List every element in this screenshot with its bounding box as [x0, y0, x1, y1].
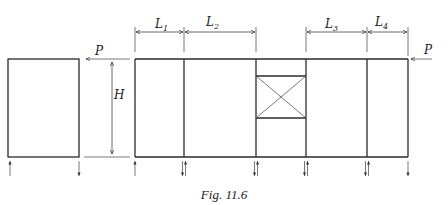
- single-frame: [8, 59, 79, 176]
- base-reactions: [135, 161, 408, 176]
- height-dimension: H: [84, 62, 130, 157]
- height-label: H: [113, 88, 125, 102]
- load-left: P: [86, 44, 130, 59]
- span-label-l3: L3: [324, 17, 338, 33]
- frame-diagram: P H: [0, 0, 448, 205]
- figure-caption: Fig. 11.6: [200, 187, 248, 202]
- single-frame-outline: [8, 59, 79, 157]
- load-right: P: [411, 43, 433, 59]
- span-label-l1: L1: [154, 17, 168, 33]
- braced-bay: [256, 76, 306, 118]
- load-label-right: P: [423, 43, 433, 57]
- span-label-l4: L4: [374, 15, 388, 31]
- span-label-l2: L2: [205, 15, 219, 31]
- multi-bay-frame: [135, 59, 408, 176]
- span-dimensions: L1 L2 L3 L4: [135, 15, 408, 56]
- load-label-left: P: [94, 44, 104, 58]
